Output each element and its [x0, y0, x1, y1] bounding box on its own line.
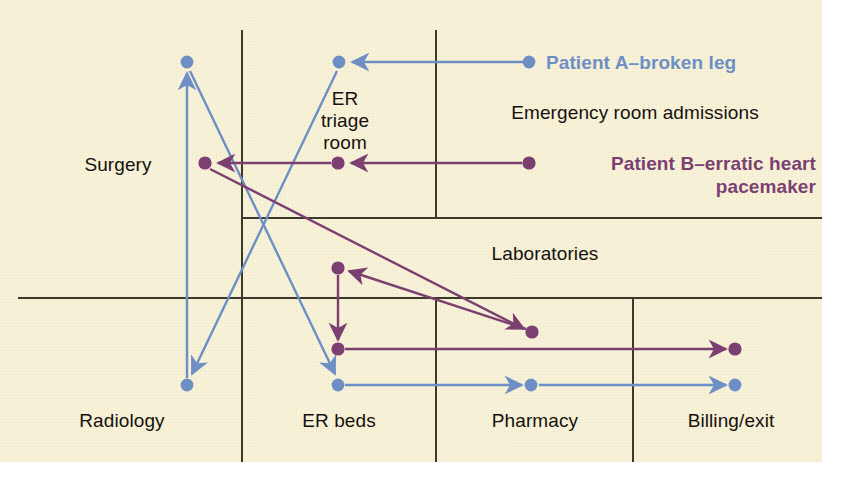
legend-label-patient-b: Patient B–erratic heart pacemaker [540, 152, 816, 198]
legend-label-patient-a: Patient A–broken leg [546, 51, 814, 74]
zone-label-emergency-room-admissions: Emergency room admissions [470, 102, 800, 124]
zone-label-radiology: Radiology [38, 410, 206, 432]
zone-label-er-triage-room: ER triage room [300, 88, 390, 154]
node-a-billing [729, 379, 742, 392]
zone-label-surgery: Surgery [38, 154, 198, 176]
zone-label-pharmacy: Pharmacy [452, 410, 618, 432]
b-edge-labs-to-erbeds-lab [349, 271, 526, 329]
node-a-erbeds [332, 379, 345, 392]
node-b-surgery [198, 156, 211, 169]
node-a-surgery [181, 56, 194, 69]
node-a-admission [523, 56, 536, 69]
node-b-erbeds [331, 342, 344, 355]
node-b-triage [331, 156, 344, 169]
node-a-radiology [181, 379, 194, 392]
zone-label-laboratories: Laboratories [440, 243, 650, 265]
node-a-pharmacy [525, 379, 538, 392]
zone-label-billing-exit: Billing/exit [648, 410, 814, 432]
node-b-labs-upper [331, 261, 344, 274]
node-b-billing [728, 342, 741, 355]
node-b-labs [525, 325, 538, 338]
grid-lines [18, 30, 822, 462]
zone-label-er-beds: ER beds [258, 410, 420, 432]
node-b-admission [522, 156, 535, 169]
diagram-canvas: Surgery ER triage room Emergency room ad… [0, 0, 852, 488]
node-a-triage [333, 56, 346, 69]
